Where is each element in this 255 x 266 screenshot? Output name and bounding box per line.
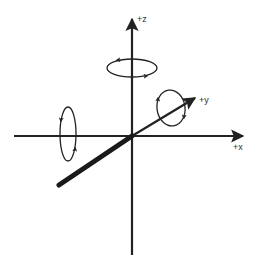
y-axis-line (132, 98, 195, 136)
x-rotation-icon (60, 107, 76, 161)
x-axis-label: +x (233, 143, 243, 152)
coordinate-diagram (0, 0, 255, 266)
y-rotation-icon (155, 88, 188, 128)
z-axis-label: +z (137, 15, 147, 24)
y-axis-label: +y (199, 96, 209, 105)
